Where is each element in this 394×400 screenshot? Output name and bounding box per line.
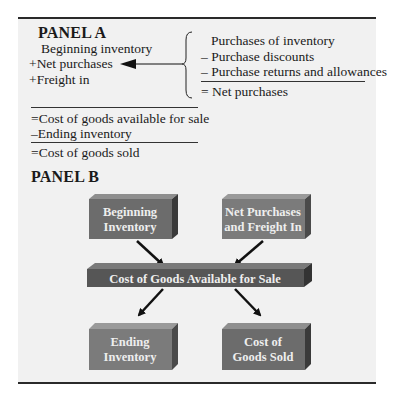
box-net-purchases: Net Purchases and Freight In bbox=[222, 194, 311, 239]
svg-text:Inventory: Inventory bbox=[104, 350, 158, 364]
box-beginning-inventory: Beginning Inventory bbox=[89, 194, 178, 239]
svg-text:Beginning: Beginning bbox=[103, 205, 158, 219]
svg-text:Cost of Goods Available for Sa: Cost of Goods Available for Sale bbox=[109, 272, 281, 286]
svg-text:Inventory: Inventory bbox=[104, 220, 158, 234]
svg-text:Goods Sold: Goods Sold bbox=[233, 350, 294, 364]
box-cost-of-goods-available: Cost of Goods Available for Sale bbox=[87, 263, 312, 287]
panel-b-diagram: Beginning Inventory Net Purchases and Fr… bbox=[0, 0, 394, 400]
svg-text:Cost of: Cost of bbox=[244, 335, 283, 349]
arrow-icon bbox=[139, 289, 163, 315]
svg-text:and Freight In: and Freight In bbox=[224, 220, 302, 234]
arrow-icon bbox=[235, 241, 263, 265]
svg-text:Ending: Ending bbox=[111, 335, 151, 349]
box-ending-inventory: Ending Inventory bbox=[89, 323, 178, 370]
arrow-icon bbox=[235, 289, 260, 315]
box-cost-of-goods-sold: Cost of Goods Sold bbox=[222, 323, 311, 370]
svg-text:Net Purchases: Net Purchases bbox=[225, 205, 301, 219]
arrow-icon bbox=[137, 241, 163, 265]
